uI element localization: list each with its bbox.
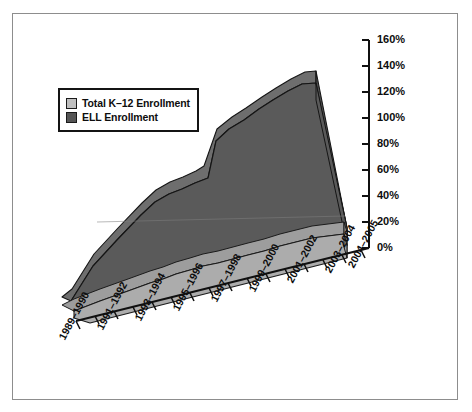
legend-item-total-k12: Total K–12 Enrollment [66,97,190,109]
legend-swatch-icon [66,98,77,109]
y-axis-ticks [362,40,369,248]
y-tick-label: 140% [377,59,405,71]
legend-item-ell: ELL Enrollment [66,111,190,123]
chart-legend: Total K–12 Enrollment ELL Enrollment [58,88,199,132]
chart-figure: 160% 140% 120% 100% 80% 60% 40% 20% 0% 1… [0,0,472,412]
y-tick-label: 60% [377,163,399,175]
legend-label: Total K–12 Enrollment [82,97,190,109]
y-tick-label: 40% [377,189,399,201]
y-tick-label: 20% [377,215,399,227]
y-tick-label: 0% [377,241,393,253]
y-tick-label: 80% [377,137,399,149]
y-tick-label: 100% [377,111,405,123]
y-tick-label: 120% [377,85,405,97]
legend-label: ELL Enrollment [82,111,158,123]
y-tick-label: 160% [377,33,405,45]
legend-swatch-icon [66,112,77,123]
